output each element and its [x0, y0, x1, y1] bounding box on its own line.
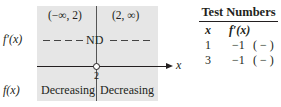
table-title: Test Numbers	[199, 5, 278, 22]
fprime-row-label: f′(x)	[3, 32, 22, 47]
open-circle-icon	[93, 63, 100, 70]
fprime-sign-row: ND	[37, 32, 158, 48]
cell-x: 3	[205, 53, 211, 68]
not-defined-label: ND	[86, 33, 103, 48]
header-fprime: f′(x)	[229, 23, 250, 38]
behavior-left: Decreasing	[41, 83, 95, 98]
x-axis-label: x	[176, 58, 181, 73]
interval-label-left: (−∞, 2)	[48, 9, 82, 21]
dash	[143, 40, 150, 41]
cell-fprime: −1	[232, 53, 245, 68]
test-numbers-table: Test Numbers x f′(x) 1 −1 ( − ) 3 −1 ( −…	[199, 5, 278, 67]
interval-label-right: (2, ∞)	[112, 9, 139, 21]
cell-fprime: −1	[232, 38, 245, 53]
interval-divider	[96, 6, 97, 101]
dash	[110, 40, 117, 41]
cell-sign: ( − )	[253, 38, 274, 53]
cell-x: 1	[205, 38, 211, 53]
x-axis-line	[37, 66, 168, 67]
axis-arrow-icon	[166, 63, 173, 69]
table-header-row: x f′(x)	[199, 22, 278, 37]
dash	[43, 40, 50, 41]
dash	[132, 40, 139, 41]
critical-point-tick: 2	[94, 70, 99, 81]
behavior-right: Decreasing	[100, 83, 154, 98]
table-row: 1 −1 ( − )	[199, 37, 278, 52]
table-row: 3 −1 ( − )	[199, 52, 278, 67]
dash	[65, 40, 72, 41]
cell-sign: ( − )	[253, 53, 274, 68]
header-x: x	[205, 23, 211, 38]
dash	[54, 40, 61, 41]
dash	[121, 40, 128, 41]
f-row-label: f(x)	[3, 83, 20, 98]
dash	[76, 40, 83, 41]
